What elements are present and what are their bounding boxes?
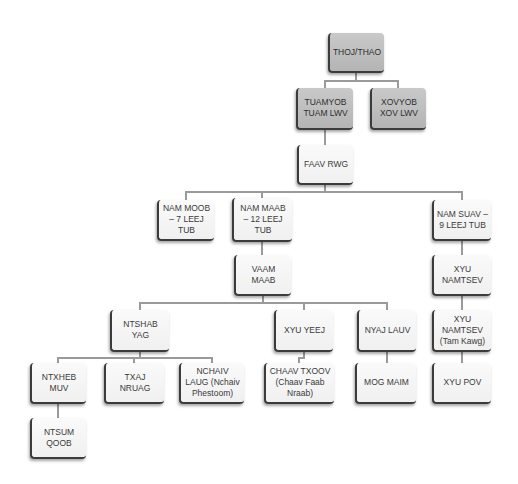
node-tuamyob: TUAMYOB TUAM LWV [296, 88, 353, 130]
connector-line [397, 81, 399, 88]
node-xyu-namtsev: XYU NAMTSEV [432, 255, 491, 296]
node-nam-moob: NAM MOOB – 7 LEEJ TUB [157, 200, 214, 241]
node-mog-maim: MOG MAIM [355, 363, 416, 404]
connector-line [139, 303, 141, 310]
connector-line [386, 352, 388, 363]
node-label: NTXHEB MUV [35, 372, 83, 394]
connector-line [261, 242, 263, 255]
node-label: XYU NAMTSEV (Tam Kawg) [437, 314, 488, 347]
node-xyu-namtsev-tk: XYU NAMTSEV (Tam Kawg) [432, 310, 491, 352]
connector-line [461, 192, 463, 200]
connector-line [324, 80, 399, 82]
connector-line [185, 191, 463, 193]
node-label: THOJ/THAO [333, 47, 381, 58]
connector-line [461, 352, 463, 363]
connector-line [324, 81, 326, 88]
connector-line [461, 241, 463, 255]
node-label: MOG MAIM [364, 377, 409, 388]
org-chart: THOJ/THAOTUAMYOB TUAM LWVXOVYOB XOV LWVF… [0, 0, 518, 484]
node-label: XYU POV [444, 377, 482, 388]
connector-line [57, 357, 213, 359]
node-label: NTSUM QOOB [35, 427, 83, 449]
connector-line [461, 296, 463, 310]
node-label: XYU NAMTSEV [437, 264, 488, 286]
node-xovyob: XOVYOB XOV LWV [370, 88, 426, 130]
connector-line [139, 302, 388, 304]
node-label: NAM MOOB – 7 LEEJ TUB [162, 203, 211, 236]
node-thoj-thao: THOJ/THAO [328, 33, 384, 73]
node-label: TXAJ NRUAG [109, 372, 161, 394]
node-label: NYAJ LAUV [365, 325, 411, 336]
node-nyaj-lauv: NYAJ LAUV [357, 310, 416, 352]
node-label: NTSHAB YAG [115, 319, 166, 341]
node-label: NCHAIV LAUG (Nchaiv Phestoom) [184, 366, 241, 399]
node-nam-maab: NAM MAAB – 12 LEEJ TUB [232, 198, 292, 242]
connector-line [386, 303, 388, 310]
node-label: NAM SUAV – 9 LEEJ TUB [437, 209, 488, 231]
connector-line [324, 130, 326, 145]
node-label: FAAV RWG [304, 159, 348, 170]
node-label: XOVYOB XOV LWV [375, 97, 423, 119]
node-txaj-nruag: TXAJ NRUAG [104, 363, 164, 404]
node-ntsum-qoob: NTSUM QOOB [30, 418, 86, 459]
connector-line [57, 404, 59, 418]
node-xyu-pov: XYU POV [432, 363, 491, 404]
node-faav-rwg: FAAV RWG [297, 145, 353, 185]
node-label: NAM MAAB – 12 LEEJ TUB [237, 203, 289, 236]
node-label: CHAAV TXOOV (Chaav Faab Nraab) [269, 366, 331, 399]
node-nchaiv-laug: NCHAIV LAUG (Nchaiv Phestoom) [179, 363, 244, 404]
node-ntshab-yag: NTSHAB YAG [110, 310, 169, 352]
node-chaav-txoov: CHAAV TXOOV (Chaav Faab Nraab) [264, 363, 334, 404]
node-label: TUAMYOB TUAM LWV [301, 97, 350, 119]
connector-line [303, 303, 305, 310]
node-label: VAAM MAAB [239, 264, 288, 286]
node-nam-suav: NAM SUAV – 9 LEEJ TUB [432, 200, 491, 241]
node-label: XYU YEEJ [284, 325, 325, 336]
node-ntxheb-muv: NTXHEB MUV [30, 363, 86, 404]
node-vaam-maab: VAAM MAAB [234, 255, 291, 296]
connector-line [185, 192, 187, 200]
node-xyu-yeej: XYU YEEJ [274, 310, 333, 352]
